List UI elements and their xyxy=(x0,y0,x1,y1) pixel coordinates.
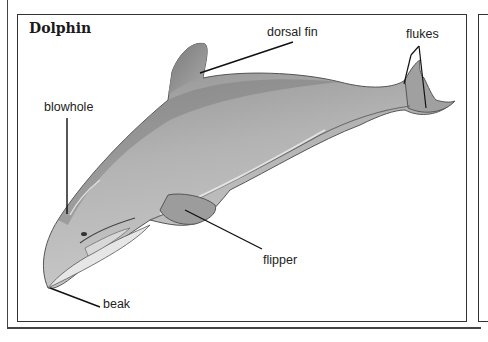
leader-dorsal-fin xyxy=(200,42,293,73)
label-blowhole: blowhole xyxy=(44,100,93,114)
diagram-title: Dolphin xyxy=(29,20,91,36)
label-dorsal-fin: dorsal fin xyxy=(267,25,318,39)
dolphin-flukes xyxy=(405,60,455,112)
leader-flukes-3 xyxy=(411,46,419,55)
leader-flipper xyxy=(185,210,262,249)
label-beak: beak xyxy=(103,297,130,311)
leader-beak xyxy=(50,288,100,307)
label-flipper: flipper xyxy=(263,253,297,267)
label-flukes: flukes xyxy=(406,27,439,41)
